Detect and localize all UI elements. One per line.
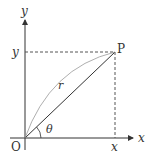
angle-arc [37,127,41,138]
origin-label: O [11,140,21,154]
x-axis-label: x [138,131,145,145]
radius-label: r [58,79,64,92]
segment-op [25,52,115,138]
y-tick-label: y [11,45,19,59]
point-p-label: P [117,42,125,56]
angle-label: θ [46,123,53,136]
x-tick-label: x [111,140,118,154]
y-axis-label: y [20,4,28,18]
polar-coordinate-diagram: y x O P y x r θ [0,0,154,167]
